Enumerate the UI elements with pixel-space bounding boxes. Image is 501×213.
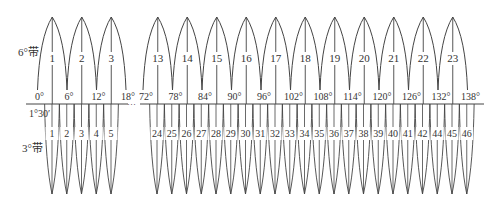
boundary-label: 84° — [198, 91, 212, 102]
six-degree-band-label: 6°带 — [18, 46, 39, 58]
six-degree-zone-number: 23 — [447, 52, 459, 64]
boundary-label: 108° — [314, 91, 333, 102]
boundary-label: 0° — [35, 91, 44, 102]
three-degree-zone-number: 31 — [255, 128, 265, 139]
three-degree-zone-number: 34 — [300, 128, 310, 139]
six-degree-zone-number: 14 — [182, 52, 194, 64]
six-degree-zone-number: 19 — [329, 52, 341, 64]
three-degree-start-label: 1°30′ — [29, 108, 50, 119]
three-degree-zone-number: 36 — [329, 128, 339, 139]
six-degree-zone-number: 16 — [241, 52, 253, 64]
three-degree-zone-number: 2 — [64, 128, 69, 139]
three-degree-zone-number: 41 — [403, 128, 413, 139]
boundary-label: 90° — [228, 91, 242, 102]
boundary-label: 18° — [121, 91, 135, 102]
boundary-label: 126° — [402, 91, 421, 102]
boundary-label: 78° — [169, 91, 183, 102]
three-degree-zone-number: 40 — [388, 128, 398, 139]
three-degree-zone-number: 30 — [241, 128, 251, 139]
three-degree-zone-number: 29 — [226, 128, 236, 139]
three-degree-zone-number: 35 — [314, 128, 324, 139]
six-degree-zone-number: 1 — [50, 52, 56, 64]
three-degree-zone-number: 46 — [462, 128, 472, 139]
three-degree-band-label: 3°带 — [22, 142, 43, 154]
boundary-label: 102° — [284, 91, 303, 102]
three-degree-zone-number: 26 — [182, 128, 192, 139]
projection-zone-diagram: ···12313141516171819202122230°6°12°18°72… — [0, 0, 501, 213]
boundary-label: 96° — [257, 91, 271, 102]
zone-shapes — [26, 17, 484, 194]
three-degree-zone-number: 39 — [373, 128, 383, 139]
boundary-label: 120° — [373, 91, 392, 102]
three-degree-zone-number: 44 — [432, 128, 442, 139]
three-degree-zone-number: 4 — [94, 128, 99, 139]
six-degree-zone-number: 2 — [79, 52, 85, 64]
three-degree-zone-number: 28 — [211, 128, 221, 139]
six-degree-zone-number: 3 — [109, 52, 115, 64]
boundary-label: 132° — [432, 91, 451, 102]
six-degree-zone-number: 17 — [270, 52, 282, 64]
three-degree-zone-number: 42 — [418, 128, 428, 139]
three-degree-zone-number: 32 — [270, 128, 280, 139]
boundary-label: 6° — [65, 91, 74, 102]
six-degree-zone-number: 20 — [359, 52, 371, 64]
three-degree-zone-number: 33 — [285, 128, 295, 139]
three-degree-zone-number: 25 — [167, 128, 177, 139]
three-degree-zone-number: 45 — [447, 128, 457, 139]
boundary-label: 12° — [92, 91, 106, 102]
boundary-label: 114° — [343, 91, 362, 102]
boundary-label: 138° — [461, 91, 480, 102]
three-degree-zone-number: 1 — [50, 128, 55, 139]
three-degree-zone-number: 38 — [359, 128, 369, 139]
three-degree-zone-number: 3 — [79, 128, 84, 139]
three-degree-zone-number: 27 — [196, 128, 206, 139]
six-degree-zone-number: 21 — [388, 52, 399, 64]
three-degree-zone-number: 37 — [344, 128, 354, 139]
six-degree-zone-number: 18 — [300, 52, 312, 64]
six-degree-zone-number: 15 — [211, 52, 223, 64]
six-degree-zone-number: 13 — [152, 52, 164, 64]
three-degree-zone-number: 24 — [152, 128, 162, 139]
boundary-label: 72° — [139, 91, 153, 102]
three-degree-zone-number: 5 — [109, 128, 114, 139]
six-degree-zone-number: 22 — [418, 52, 429, 64]
